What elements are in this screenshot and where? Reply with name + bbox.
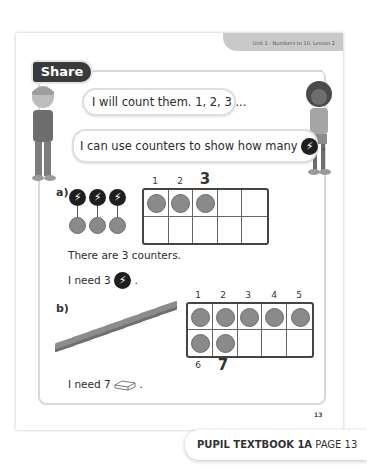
lightning-counter-icon: ⚡ (114, 272, 131, 289)
need-text: I need 3 (68, 274, 111, 286)
ten-frame-b (186, 302, 314, 358)
book-title: PUPIL TEXTBOOK 1A (197, 439, 312, 450)
frame-cell (188, 304, 213, 330)
counter (191, 334, 210, 353)
counter (291, 308, 310, 327)
counter (196, 194, 215, 213)
speech-suffix: . (322, 139, 326, 153)
frame-cell (262, 330, 287, 356)
frame-cell (193, 217, 218, 244)
frame-cell (242, 217, 267, 244)
frame-cell (218, 217, 243, 244)
frame-count-label: 1 (149, 176, 161, 186)
need-statement-b: I need 7 . (68, 378, 143, 391)
part-b-label: b) (56, 302, 69, 315)
frame-count-total: 7 (217, 356, 229, 374)
frame-count-total: 3 (199, 170, 211, 188)
frame-cell (287, 304, 312, 330)
need-suffix: . (139, 378, 142, 390)
statement-text: There are 3 counters. (68, 249, 181, 261)
page-label: PAGE 13 (315, 439, 357, 450)
frame-cell (213, 330, 238, 356)
frame-cell (238, 330, 263, 356)
match-line (77, 206, 78, 217)
brick-icon (114, 380, 136, 391)
section-title: Share (33, 62, 91, 82)
frame-cell (218, 190, 243, 217)
frame-cell (144, 217, 169, 244)
match-line (117, 206, 118, 217)
unit-label: Unit 1 : Numbers to 10, Lesson 2 (253, 40, 335, 46)
speech-text: I will count them. 1, 2, 3 ... (92, 95, 246, 109)
lightning-counter-icon: ⚡ (89, 189, 106, 206)
counter (216, 308, 235, 327)
frame-count-label: 3 (242, 290, 254, 300)
need-statement-a: I need 3 ⚡ . (68, 272, 138, 289)
counter (69, 217, 86, 234)
need-text: I need 7 (68, 378, 111, 390)
frame-cell (169, 217, 194, 244)
frame-cell (242, 190, 267, 217)
speech-bubble-girl: I can use counters to show how many ⚡ . (72, 129, 318, 163)
speech-bubble-boy: I will count them. 1, 2, 3 ... (82, 88, 236, 116)
counter (89, 217, 106, 234)
lightning-counter-icon: ⚡ (109, 189, 126, 206)
lightning-counter-icon: ⚡ (301, 138, 318, 155)
ten-frame-a (142, 188, 269, 245)
counter (109, 217, 126, 234)
need-suffix: . (134, 274, 137, 286)
unit-tab: Unit 1 : Numbers to 10, Lesson 2 (223, 33, 343, 51)
counter (191, 308, 210, 327)
part-a-label: a) (56, 186, 68, 199)
match-line (97, 206, 98, 217)
frame-count-label: 4 (268, 290, 280, 300)
frame-count-label: 2 (217, 290, 229, 300)
speech-text: I can use counters to show how many (80, 139, 298, 153)
footer-label: PUPIL TEXTBOOK 1A PAGE 13 (185, 430, 367, 460)
frame-count-label: 2 (174, 176, 186, 186)
frame-count-label: 5 (293, 290, 305, 300)
boy-character-icon (24, 84, 62, 184)
counter (265, 308, 284, 327)
counter (216, 334, 235, 353)
frame-cell (144, 190, 169, 217)
frame-cell (169, 190, 194, 217)
frame-cell (262, 304, 287, 330)
counter (240, 308, 259, 327)
page-number: 13 (314, 411, 322, 418)
lightning-counter-icon: ⚡ (69, 189, 86, 206)
frame-count-label: 6 (192, 360, 204, 370)
divider (91, 70, 323, 72)
frame-cell (193, 190, 218, 217)
frame-cell (238, 304, 263, 330)
frame-cell (213, 304, 238, 330)
frame-cell (287, 330, 312, 356)
frame-cell (188, 330, 213, 356)
frame-count-label: 1 (192, 290, 204, 300)
counter (171, 194, 190, 213)
counter (147, 194, 166, 213)
